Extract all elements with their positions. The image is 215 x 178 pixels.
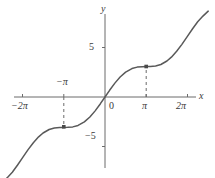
x-tick-label-neg2pi: −2π [11,101,28,111]
y-tick-label-neg5: −5 [85,131,96,141]
x-tick-label-pi: π [142,101,147,111]
x-tick-label-2pi: 2π [176,101,186,111]
y-tick-label-5: 5 [89,42,94,52]
x-tick-label-negpi: −π [56,77,68,87]
marker-point-neg-pi [62,125,66,129]
graph-figure: y x 5 −5 −2π −π 0 π 2π [0,0,215,178]
y-axis-label: y [101,4,105,14]
x-axis-label: x [199,91,203,101]
marker-point-pi [144,65,148,69]
x-tick-label-zero: 0 [109,101,114,111]
plot-canvas [0,0,215,178]
